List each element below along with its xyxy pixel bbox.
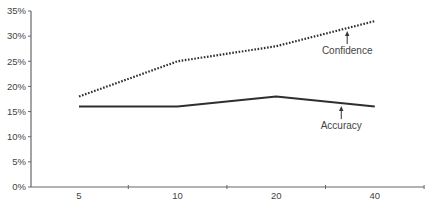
series-confidence — [79, 21, 375, 96]
x-axis: 5102040 — [31, 185, 424, 201]
line-chart: 0%5%10%15%20%25%30%35% 5102040 Confidenc… — [0, 0, 431, 211]
accuracy-annotation-label: Accuracy — [321, 120, 362, 131]
confidence-annotation-label: Confidence — [322, 45, 373, 56]
y-tick-label: 20% — [7, 81, 27, 92]
y-tick-label: 25% — [7, 56, 27, 67]
series-lines — [79, 21, 375, 106]
x-tick-label: 5 — [76, 190, 81, 201]
x-tick-label: 10 — [172, 190, 183, 201]
x-tick-label: 20 — [271, 190, 282, 201]
x-tick-label: 40 — [370, 190, 381, 201]
y-tick-label: 35% — [7, 5, 27, 16]
y-tick-label: 10% — [7, 131, 27, 142]
y-tick-label: 5% — [12, 156, 26, 167]
accuracy-arrow-head-icon — [339, 106, 343, 111]
y-tick-label: 0% — [12, 181, 26, 192]
annotations: ConfidenceAccuracy — [321, 31, 373, 131]
y-tick-label: 15% — [7, 106, 27, 117]
y-axis: 0%5%10%15%20%25%30%35% — [7, 5, 31, 192]
y-tick-label: 30% — [7, 30, 27, 41]
confidence-arrow-head-icon — [345, 31, 349, 36]
series-accuracy — [79, 97, 375, 107]
